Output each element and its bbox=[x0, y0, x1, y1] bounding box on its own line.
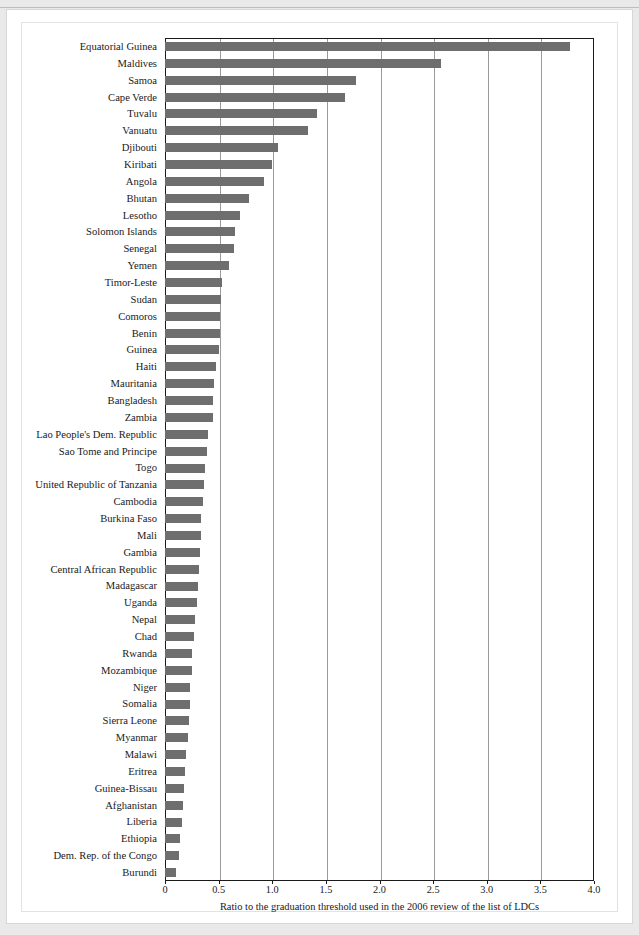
bar bbox=[165, 834, 180, 843]
category-label: Benin bbox=[0, 325, 157, 342]
category-label: Somalia bbox=[0, 696, 157, 713]
x-tick-label: 0 bbox=[162, 884, 167, 895]
category-label: Senegal bbox=[0, 240, 157, 257]
category-label: Yemen bbox=[0, 257, 157, 274]
x-axis-title: Ratio to the graduation threshold used i… bbox=[165, 901, 594, 912]
x-tick-label: 2.0 bbox=[373, 884, 386, 895]
category-label: Malawi bbox=[0, 746, 157, 763]
category-label-text: Mali bbox=[137, 530, 157, 541]
category-label-text: Vanuatu bbox=[122, 125, 157, 136]
category-label-text: Tuvalu bbox=[127, 108, 157, 119]
category-label: Guinea-Bissau bbox=[0, 780, 157, 797]
bar-row bbox=[165, 797, 594, 814]
bar bbox=[165, 632, 194, 641]
category-label: Comoros bbox=[0, 308, 157, 325]
bar-row bbox=[165, 257, 594, 274]
bar-row bbox=[165, 358, 594, 375]
bar-row bbox=[165, 38, 594, 55]
category-label-text: Zambia bbox=[125, 412, 157, 423]
bar bbox=[165, 278, 222, 287]
category-label: Timor-Leste bbox=[0, 274, 157, 291]
bar bbox=[165, 818, 182, 827]
bar-row bbox=[165, 729, 594, 746]
category-label: Djibouti bbox=[0, 139, 157, 156]
bar-row bbox=[165, 527, 594, 544]
bar-row bbox=[165, 544, 594, 561]
category-label-text: Guinea bbox=[126, 344, 157, 355]
category-label: Dem. Rep. of the Congo bbox=[0, 847, 157, 864]
bar-row bbox=[165, 72, 594, 89]
bar-row bbox=[165, 291, 594, 308]
category-label-text: Malawi bbox=[125, 749, 157, 760]
category-label-text: Cape Verde bbox=[108, 92, 157, 103]
category-label-text: Haiti bbox=[136, 361, 157, 372]
bar bbox=[165, 750, 186, 759]
category-label-text: Benin bbox=[132, 328, 157, 339]
category-label: Togo bbox=[0, 460, 157, 477]
bar bbox=[165, 767, 185, 776]
bar bbox=[165, 194, 249, 203]
bar-row bbox=[165, 122, 594, 139]
bar-row bbox=[165, 55, 594, 72]
bar bbox=[165, 700, 190, 709]
bar bbox=[165, 615, 195, 624]
bar-row bbox=[165, 308, 594, 325]
bar bbox=[165, 126, 308, 135]
bar-row bbox=[165, 510, 594, 527]
x-tick-label: 3.0 bbox=[480, 884, 493, 895]
category-label: Central African Republic bbox=[0, 561, 157, 578]
category-label-text: Burundi bbox=[122, 867, 157, 878]
bar bbox=[165, 784, 184, 793]
bar bbox=[165, 413, 213, 422]
bar bbox=[165, 109, 317, 118]
category-label: Angola bbox=[0, 173, 157, 190]
category-label: Rwanda bbox=[0, 645, 157, 662]
value-axis-ticks: 00.51.01.52.02.53.03.54.0 bbox=[165, 881, 594, 899]
x-tick-label: 4.0 bbox=[588, 884, 601, 895]
category-label-text: Central African Republic bbox=[51, 564, 158, 575]
category-label: Guinea bbox=[0, 341, 157, 358]
category-label-text: Maldives bbox=[118, 58, 157, 69]
bar-row bbox=[165, 476, 594, 493]
category-label-text: Bhutan bbox=[126, 193, 157, 204]
bar-row bbox=[165, 139, 594, 156]
bar-row bbox=[165, 375, 594, 392]
bar-row bbox=[165, 173, 594, 190]
bar-row bbox=[165, 156, 594, 173]
bar-series bbox=[165, 38, 594, 881]
category-label-text: Comoros bbox=[118, 311, 157, 322]
bar-row bbox=[165, 460, 594, 477]
category-label-text: Kiribati bbox=[124, 159, 157, 170]
bar-row bbox=[165, 830, 594, 847]
category-label: Niger bbox=[0, 679, 157, 696]
category-label: Sudan bbox=[0, 291, 157, 308]
category-label-text: Liberia bbox=[126, 816, 157, 827]
bar-row bbox=[165, 325, 594, 342]
category-label-text: Guinea-Bissau bbox=[95, 783, 157, 794]
bar bbox=[165, 362, 216, 371]
bar-chart: Equatorial GuineaMaldivesSamoaCape Verde… bbox=[0, 0, 639, 935]
bar bbox=[165, 76, 356, 85]
category-label: Gambia bbox=[0, 544, 157, 561]
x-tick-label: 0.5 bbox=[212, 884, 225, 895]
category-label-text: Yemen bbox=[127, 260, 157, 271]
bar bbox=[165, 261, 229, 270]
bar-row bbox=[165, 763, 594, 780]
category-label: Burkina Faso bbox=[0, 510, 157, 527]
bar bbox=[165, 42, 570, 51]
category-label: Cambodia bbox=[0, 493, 157, 510]
bar bbox=[165, 244, 234, 253]
category-label: Burundi bbox=[0, 864, 157, 881]
category-label-text: Bangladesh bbox=[108, 395, 157, 406]
category-label-text: Madagascar bbox=[106, 580, 157, 591]
bar bbox=[165, 160, 272, 169]
bar bbox=[165, 497, 203, 506]
bar bbox=[165, 430, 208, 439]
category-label-text: Afghanistan bbox=[105, 800, 157, 811]
category-label: Bhutan bbox=[0, 190, 157, 207]
bar-row bbox=[165, 190, 594, 207]
x-tick-label: 3.5 bbox=[534, 884, 547, 895]
category-label: Mauritania bbox=[0, 375, 157, 392]
category-label-text: Rwanda bbox=[122, 648, 157, 659]
category-label-text: Timor-Leste bbox=[105, 277, 157, 288]
